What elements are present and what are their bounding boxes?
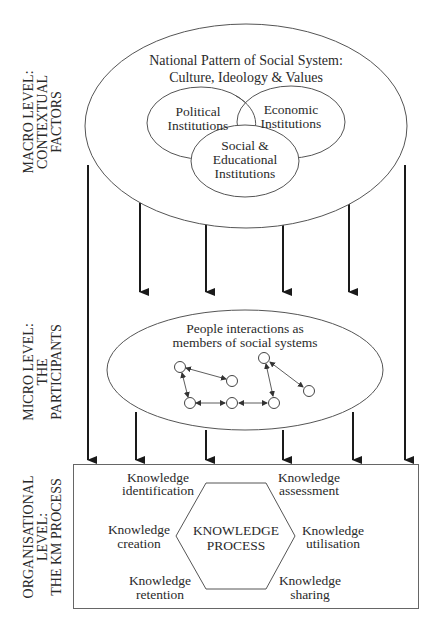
macro-level-line1: MACRO LEVEL:	[21, 70, 36, 173]
social-line1: Social &	[221, 138, 269, 153]
micro-level-line2: THE	[35, 358, 50, 385]
macro-level-line3: FACTORS	[49, 91, 64, 153]
organisational-level-line2: LEVEL:	[35, 513, 50, 561]
organisational-level-label: ORGANISATIONAL LEVEL: THE KM PROCESS	[21, 476, 64, 599]
social-line2: Educational	[213, 152, 278, 167]
economic-line2: Institutions	[261, 116, 322, 131]
step-assessment-line2: assessment	[279, 483, 339, 498]
macro-level-label: MACRO LEVEL: CONTEXTUAL FACTORS	[21, 70, 64, 173]
micro-level-line1: MICRO LEVEL:	[21, 323, 36, 421]
macro-title-line2: Culture, Ideology & Values	[169, 70, 323, 85]
km-center-line2: PROCESS	[207, 538, 266, 553]
social-line3: Institutions	[215, 166, 276, 181]
economic-line1: Economic	[264, 102, 319, 117]
step-utilisation-line2: utilisation	[306, 536, 360, 551]
participant-node	[259, 353, 270, 364]
political-line2: Institutions	[168, 118, 229, 133]
political-line1: Political	[176, 104, 221, 119]
participant-node	[227, 398, 238, 409]
micro-title-line1: People interactions as	[186, 321, 304, 336]
step-sharing-line1: Knowledge	[279, 573, 341, 588]
step-identification-line2: identification	[122, 483, 194, 498]
km-center-line1: KNOWLEDGE	[193, 523, 279, 538]
participant-node	[269, 398, 280, 409]
participant-node	[227, 376, 238, 387]
micro-title-line2: members of social systems	[172, 335, 317, 350]
micro-level-label: MICRO LEVEL: THE PARTICIPANTS	[21, 323, 64, 421]
organisational-level-line3: THE KM PROCESS	[49, 478, 64, 595]
step-retention-line2: retention	[136, 587, 184, 602]
micro-level-line3: PARTICIPANTS	[49, 324, 64, 419]
step-retention-line1: Knowledge	[129, 573, 191, 588]
step-creation-line1: Knowledge	[108, 522, 170, 537]
organisational-level-line1: ORGANISATIONAL	[21, 476, 36, 599]
km-framework-diagram: MACRO LEVEL: CONTEXTUAL FACTORS MICRO LE…	[0, 0, 437, 631]
macro-title-line1: National Pattern of Social System:	[149, 53, 343, 68]
participant-node	[185, 398, 196, 409]
participant-node	[304, 386, 315, 397]
step-creation-line2: creation	[117, 536, 161, 551]
participant-node	[175, 362, 186, 373]
macro-level-line2: CONTEXTUAL	[35, 75, 50, 169]
step-sharing-line2: sharing	[290, 587, 330, 602]
